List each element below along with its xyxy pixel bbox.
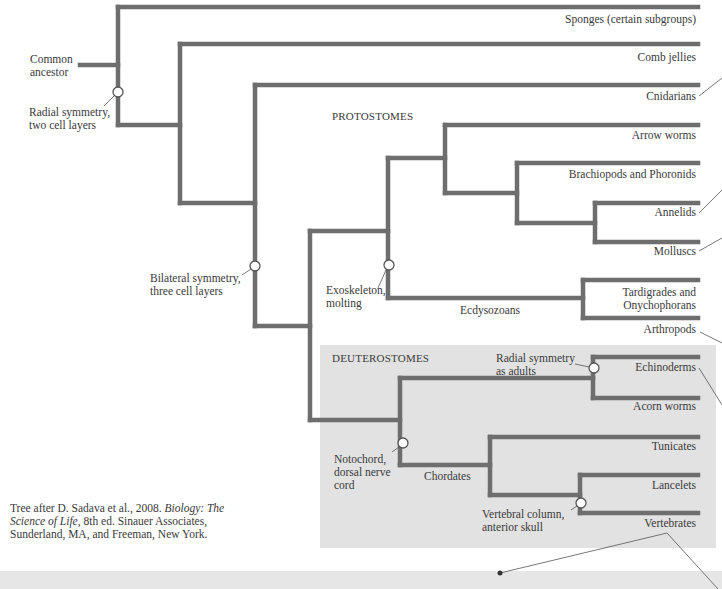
pointer-dot — [498, 571, 503, 576]
ecdysozoans-label: Ecdysozoans — [460, 304, 521, 317]
taxon-sponges: Sponges (certain subgroups) — [565, 13, 696, 26]
trait-radial-adults-line2: as adults — [496, 365, 536, 377]
node-notochord — [398, 438, 408, 448]
node-radial-adults — [589, 363, 599, 373]
taxon-brachiopods: Brachiopods and Phoronids — [569, 168, 697, 181]
trait-bilateral-line2: three cell layers — [150, 285, 223, 298]
trait-vertebral-line1: Vertebral column, — [482, 508, 565, 521]
taxon-cnidarians: Cnidarians — [646, 90, 696, 102]
trait-notochord-line1: Notochord, — [334, 453, 386, 466]
taxon-arrow-worms: Arrow worms — [632, 129, 697, 141]
node-radial-symmetry — [113, 87, 123, 97]
trait-radial-line1: Radial symmetry, — [29, 106, 110, 119]
taxon-comb-jellies: Comb jellies — [638, 51, 697, 64]
protostomes-label: PROTOSTOMES — [332, 110, 413, 122]
root-label: Common ancestor — [30, 53, 73, 78]
taxon-molluscs: Molluscs — [654, 245, 697, 257]
trait-exoskeleton-line2: molting — [326, 297, 362, 310]
trait-notochord-line2: dorsal nerve — [334, 466, 391, 478]
taxon-acorn-worms: Acorn worms — [633, 400, 696, 412]
trait-vertebral-line2: anterior skull — [482, 521, 543, 533]
trait-notochord-line3: cord — [334, 479, 355, 491]
taxon-tardigrades-line2: Onychophorans — [623, 299, 696, 312]
phylogenetic-tree-figure: Sponges (certain subgroups) Comb jellies… — [0, 0, 722, 589]
taxon-tunicates: Tunicates — [652, 440, 697, 452]
node-vertebral-column — [576, 498, 586, 508]
trait-bilateral-line1: Bilateral symmetry, — [150, 272, 241, 285]
chordates-label: Chordates — [424, 470, 471, 482]
bottom-bar — [0, 571, 722, 589]
node-exoskeleton — [384, 260, 394, 270]
trait-radial-adults-line1: Radial symmetry — [496, 352, 575, 365]
taxon-vertebrates: Vertebrates — [644, 517, 696, 529]
trait-exoskeleton-line1: Exoskeleton, — [326, 284, 386, 297]
svg-text:Common: Common — [30, 53, 73, 65]
taxon-arthropods: Arthropods — [644, 323, 697, 336]
tree-canvas: Sponges (certain subgroups) Comb jellies… — [0, 0, 722, 589]
taxon-echinoderms: Echinoderms — [635, 361, 696, 373]
node-bilateral-symmetry — [250, 261, 260, 271]
taxon-annelids: Annelids — [654, 206, 696, 218]
figure-credit: Tree after D. Sadava et al., 2008. Biolo… — [10, 502, 250, 541]
trait-radial-line2: two cell layers — [29, 119, 97, 132]
taxon-tardigrades-line1: Tardigrades and — [622, 286, 696, 299]
deuterostomes-label: DEUTEROSTOMES — [332, 352, 429, 364]
taxon-lancelets: Lancelets — [652, 479, 697, 491]
svg-text:ancestor: ancestor — [30, 66, 68, 78]
